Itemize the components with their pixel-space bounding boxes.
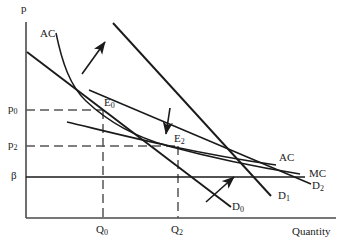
equilibrium-label-e2-subscript: 2	[181, 137, 185, 146]
curve-d0	[27, 52, 231, 207]
economics-diagram: p Quantity p0 p2 β Q0 Q2 E0 E2 AC AC MC …	[0, 0, 347, 244]
y-axis-label: p	[21, 3, 27, 14]
quantity-tick-q2-subscript: 2	[179, 228, 183, 237]
quantity-tick-q0-subscript: 0	[104, 228, 108, 237]
equilibrium-label-e2: E2	[174, 133, 185, 146]
price-tick-p0: p0	[8, 103, 18, 116]
guide-lines-group	[26, 110, 178, 218]
arrow-shift-down	[166, 108, 170, 134]
curve-ac-shifted	[67, 122, 276, 165]
curve-label-d1-subscript: 1	[286, 194, 290, 203]
curve-label-d1: D1	[278, 190, 290, 203]
price-tick-p2-subscript: 2	[14, 143, 18, 152]
x-axis-label: Quantity	[292, 226, 331, 237]
quantity-tick-q2-text: Q	[171, 223, 179, 235]
curve-label-d0: D0	[232, 201, 244, 214]
equilibrium-label-e0-text: E	[104, 96, 111, 108]
curve-label-mc: MC	[309, 168, 326, 179]
price-tick-p2: p2	[8, 139, 18, 152]
quantity-tick-q0: Q0	[96, 224, 108, 237]
price-tick-p0-subscript: 0	[14, 107, 18, 116]
curve-label-d1-text: D	[278, 189, 286, 201]
curve-label-d2-subscript: 2	[320, 184, 324, 193]
equilibrium-label-e2-text: E	[174, 132, 181, 144]
curve-label-ac-initial: AC	[40, 28, 55, 39]
curve-label-d2: D2	[312, 180, 324, 193]
equilibrium-label-e0: E0	[104, 97, 115, 110]
curve-label-d0-text: D	[232, 200, 240, 212]
arrow-shift-outward	[82, 42, 105, 74]
curve-label-ac-shifted: AC	[279, 152, 294, 163]
annotation-arrows-group	[82, 42, 234, 202]
curve-label-d0-subscript: 0	[240, 205, 244, 214]
equilibrium-label-e0-subscript: 0	[111, 101, 115, 110]
price-tick-beta: β	[11, 170, 17, 181]
curve-label-d2-text: D	[312, 179, 320, 191]
quantity-tick-q2: Q2	[171, 224, 183, 237]
quantity-tick-q0-text: Q	[96, 223, 104, 235]
axes-group	[26, 22, 336, 218]
curve-d2	[89, 90, 311, 184]
